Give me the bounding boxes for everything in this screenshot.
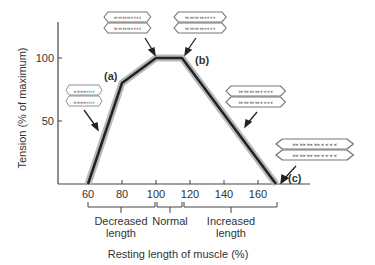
- normal-label: Normal: [152, 215, 187, 227]
- sarcomere-diagram-a: [66, 85, 102, 106]
- point-b-label: (b): [195, 54, 209, 66]
- range-brackets: [88, 202, 277, 213]
- point-c-label: (c): [288, 172, 302, 184]
- increased-label-1: Increased: [207, 215, 255, 227]
- y-tick-50: 50: [42, 115, 54, 127]
- increased-label-2: length: [216, 227, 246, 239]
- sarcomere-diagram-optimal: [104, 12, 151, 33]
- sarcomere-diagram-c: [276, 139, 353, 160]
- y-axis-label: Tension (% of maximum): [16, 47, 28, 168]
- point-a-label: (a): [104, 70, 118, 82]
- sarcomere-diagram-stretched: [226, 86, 285, 107]
- decreased-label-2: length: [106, 227, 136, 239]
- x-tick-80: 80: [116, 188, 128, 200]
- x-tick-160: 160: [249, 188, 267, 200]
- y-tick-100: 100: [36, 52, 54, 64]
- length-tension-chart: »»»»‹‹‹‹ »»»»‹‹‹‹ 100 50 Tension (% of m…: [0, 0, 375, 265]
- sarcomere-diagram-b: [174, 12, 226, 33]
- x-tick-140: 140: [215, 188, 233, 200]
- x-tick-100: 100: [147, 188, 165, 200]
- x-tick-120: 120: [181, 188, 199, 200]
- decreased-label-1: Decreased: [94, 215, 147, 227]
- x-axis-label: Resting length of muscle (%): [108, 248, 249, 260]
- x-tick-60: 60: [82, 188, 94, 200]
